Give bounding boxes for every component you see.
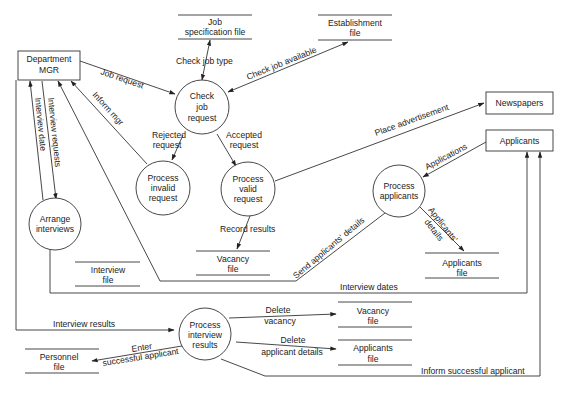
process-label: Process xyxy=(383,181,414,191)
process-check-job-request[interactable]: Check job request xyxy=(175,80,229,134)
process-applicants[interactable]: Process applicants xyxy=(373,165,425,217)
store-label: file xyxy=(368,354,379,364)
flow-label-interview-requests: Interview requests xyxy=(46,97,63,167)
process-label: Process xyxy=(232,174,263,184)
flow-label-delete-applicant: applicant details xyxy=(261,347,323,357)
store-label: Applicants xyxy=(353,343,393,353)
flow-label-delete-vacancy: Delete xyxy=(266,305,291,315)
store-applicants-top[interactable]: Applicants file xyxy=(425,253,499,278)
store-label: file xyxy=(54,362,65,372)
entity-department-mgr[interactable]: Department MGR xyxy=(18,51,80,80)
store-label: Job xyxy=(208,17,222,27)
store-personnel[interactable]: Personnel file xyxy=(25,349,99,373)
store-label: Interview xyxy=(91,265,126,275)
entity-label: Newspapers xyxy=(496,98,544,108)
store-label: file xyxy=(350,28,361,38)
process-label: invalid xyxy=(151,183,176,193)
flow-check-job-available[interactable] xyxy=(228,42,348,92)
store-job-specification[interactable]: Job specification file xyxy=(178,15,252,39)
process-label: results xyxy=(192,340,217,350)
store-applicants-bottom[interactable]: Applicants file xyxy=(338,340,412,365)
flow-label-applications: Applications xyxy=(423,141,469,172)
process-label: Process xyxy=(189,320,220,330)
flow-label-interview-date: Interview date xyxy=(33,97,49,151)
store-label: Applicants xyxy=(442,258,482,268)
process-valid-request[interactable]: Process valid request xyxy=(221,162,275,216)
process-label: valid xyxy=(239,184,257,194)
store-vacancy-bottom[interactable]: Vacancy file xyxy=(338,302,412,327)
process-label: job xyxy=(195,102,208,112)
process-invalid-request[interactable]: Process invalid request xyxy=(136,161,190,215)
flow-label-send-applicants-details: Send applicants' details xyxy=(291,215,366,281)
flow-label-accepted: request xyxy=(230,140,259,150)
process-arrange-interviews[interactable]: Arrange interviews xyxy=(29,198,81,250)
store-label: Establishment xyxy=(328,18,383,28)
process-label: Check xyxy=(190,91,215,101)
process-label: request xyxy=(149,193,178,203)
entity-label: Applicants xyxy=(500,136,540,146)
data-flow-diagram: Department MGR Newspapers Applicants Job… xyxy=(0,0,566,394)
store-label: specification file xyxy=(185,27,246,37)
store-label: Vacancy xyxy=(217,254,250,264)
process-label: interview xyxy=(188,330,223,340)
flow-label-job-request: Job request xyxy=(99,66,145,90)
process-label: Process xyxy=(147,173,178,183)
flow-label-interview-dates: Interview dates xyxy=(340,282,398,292)
process-label: Arrange xyxy=(40,214,71,224)
flow-label-check-job-available: Check job available xyxy=(245,45,318,82)
store-establishment[interactable]: Establishment file xyxy=(318,15,392,40)
flow-label-check-job-type: Check job type xyxy=(176,56,233,66)
entity-newspapers[interactable]: Newspapers xyxy=(486,92,553,114)
flow-label-rejected: request xyxy=(153,140,182,150)
flow-label-interview-results: Interview results xyxy=(53,319,115,329)
process-label: request xyxy=(234,194,263,204)
store-label: file xyxy=(228,264,239,274)
store-vacancy-top[interactable]: Vacancy file xyxy=(196,251,270,275)
flow-label-delete-vacancy: vacancy xyxy=(264,316,296,326)
flow-inform-mgr[interactable] xyxy=(71,81,147,164)
store-label: Vacancy xyxy=(357,306,390,316)
store-label: file xyxy=(457,268,468,278)
entity-applicants[interactable]: Applicants xyxy=(486,130,553,151)
process-label: request xyxy=(188,113,217,123)
store-label: file xyxy=(368,316,379,326)
store-interview[interactable]: Interview file xyxy=(75,262,140,286)
entity-label: MGR xyxy=(39,65,59,75)
process-interview-results[interactable]: Process interview results xyxy=(179,308,231,360)
flow-label-rejected: Rejected xyxy=(152,130,186,140)
flow-label-inform-successful: Inform successful applicant xyxy=(421,366,525,376)
flow-label-record-results: Record results xyxy=(220,224,275,234)
flow-place-advertisement[interactable] xyxy=(275,103,484,181)
store-label: Personnel xyxy=(40,352,79,362)
flow-label-accepted: Accepted xyxy=(226,130,262,140)
store-label: file xyxy=(103,275,114,285)
flow-label-delete-applicant: Delete xyxy=(281,335,306,345)
entity-label: Department xyxy=(27,54,73,64)
process-label: applicants xyxy=(380,191,419,201)
process-label: interviews xyxy=(36,224,74,234)
